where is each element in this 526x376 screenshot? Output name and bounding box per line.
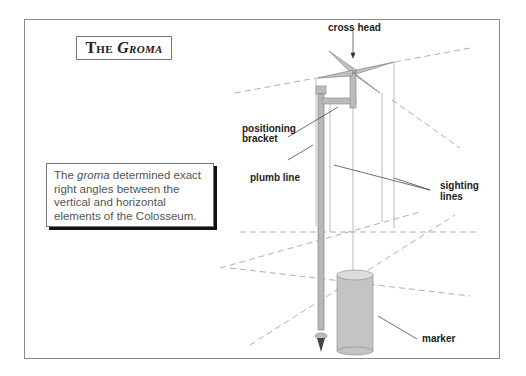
label-sighting: sighting [440, 180, 479, 191]
label-marker: marker [422, 333, 455, 344]
label-lines: lines [440, 191, 463, 202]
label-cross-head: cross head [328, 22, 381, 33]
label-bracket: bracket [242, 133, 278, 144]
marker-cylinder [337, 270, 373, 355]
label-plumb-line: plumb line [250, 172, 300, 183]
